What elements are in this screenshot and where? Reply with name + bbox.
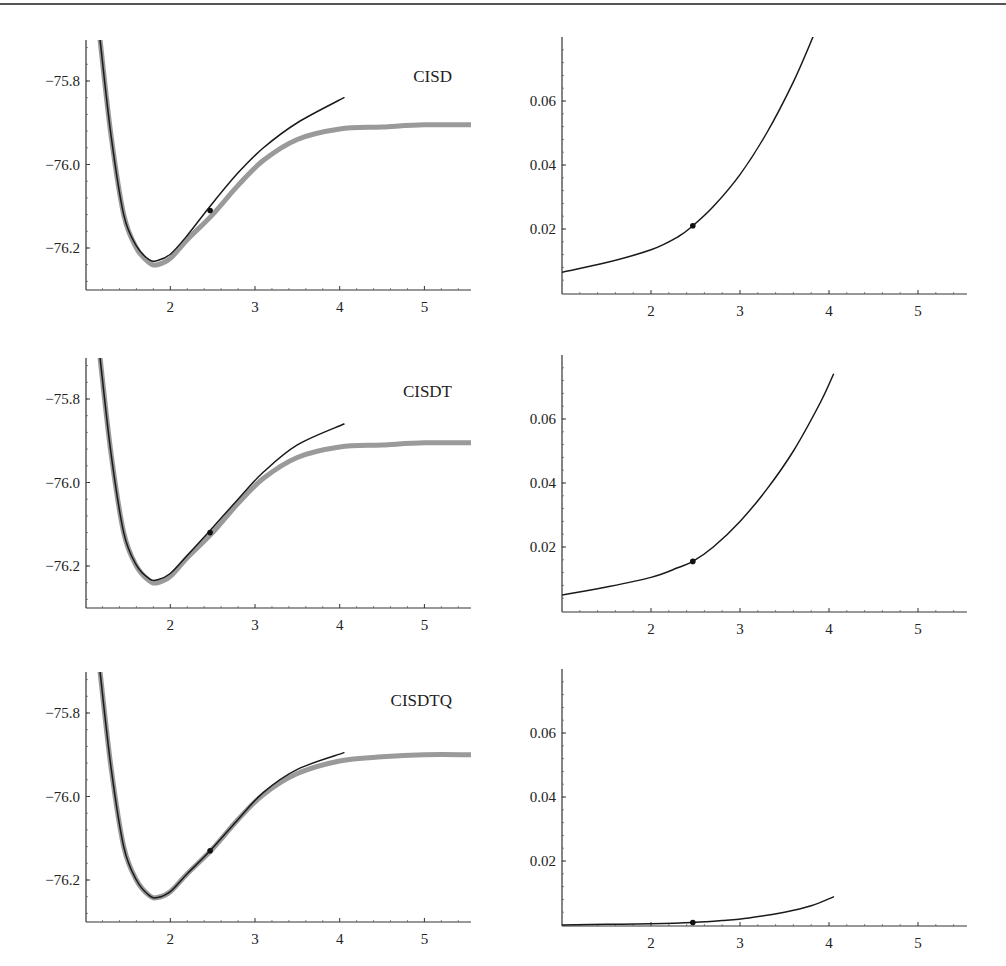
ci-curve [562, 37, 813, 272]
panel-middle-left: 2345−75.8−76.0−76.2CISDT [45, 357, 471, 633]
x-tick-label: 3 [736, 303, 744, 319]
panel-top-right: 23450.020.040.06 [530, 37, 967, 319]
x-tick-label: 2 [647, 303, 655, 319]
panel-middle-right: 23450.020.040.06 [530, 355, 967, 637]
x-tick-label: 5 [914, 935, 922, 951]
data-point-marker [207, 530, 213, 536]
x-tick-label: 4 [336, 617, 344, 633]
data-point-marker [207, 848, 213, 854]
y-tick-label: 0.06 [530, 93, 557, 109]
data-point-marker [690, 920, 696, 926]
y-tick-label: −76.2 [45, 872, 80, 888]
data-point-marker [690, 223, 696, 229]
y-tick-label: −75.8 [45, 391, 80, 407]
x-tick-label: 3 [251, 617, 259, 633]
y-tick-label: −76.2 [45, 558, 80, 574]
y-tick-label: 0.02 [530, 853, 556, 869]
y-tick-label: 0.04 [530, 475, 557, 491]
panel-top-left: 2345−75.8−76.0−76.2CISD [45, 39, 471, 315]
ci-curve [562, 897, 833, 925]
panel-label: CISDTQ [391, 691, 452, 710]
x-tick-label: 5 [421, 299, 429, 315]
ci-curve [562, 374, 833, 595]
panel-label: CISD [413, 67, 452, 86]
x-tick-label: 2 [167, 617, 175, 633]
ci-curve [100, 357, 344, 580]
x-tick-label: 4 [825, 935, 833, 951]
y-tick-label: 0.06 [530, 725, 557, 741]
y-tick-label: −76.0 [45, 789, 80, 805]
x-tick-label: 4 [336, 299, 344, 315]
x-tick-label: 2 [167, 299, 175, 315]
panel-bottom-right: 23450.020.040.06 [530, 669, 967, 951]
y-tick-label: −76.2 [45, 240, 80, 256]
y-tick-label: −76.0 [45, 475, 80, 491]
x-tick-label: 3 [251, 299, 259, 315]
x-tick-label: 4 [336, 931, 344, 947]
x-tick-label: 5 [914, 303, 922, 319]
y-tick-label: 0.02 [530, 221, 556, 237]
x-tick-label: 4 [825, 621, 833, 637]
x-tick-label: 5 [914, 621, 922, 637]
x-tick-label: 3 [736, 935, 744, 951]
y-tick-label: −75.8 [45, 73, 80, 89]
data-point-marker [690, 559, 696, 565]
figure-canvas: 2345−75.8−76.0−76.2CISD23450.020.040.062… [0, 0, 1006, 966]
x-tick-label: 3 [736, 621, 744, 637]
x-tick-label: 4 [825, 303, 833, 319]
x-tick-label: 2 [167, 931, 175, 947]
y-tick-label: 0.04 [530, 157, 557, 173]
ci-curve [100, 39, 344, 261]
x-tick-label: 5 [421, 617, 429, 633]
data-point-marker [207, 208, 213, 214]
y-tick-label: 0.04 [530, 789, 557, 805]
y-tick-label: −75.8 [45, 705, 80, 721]
y-tick-label: −76.0 [45, 157, 80, 173]
x-tick-label: 3 [251, 931, 259, 947]
y-tick-label: 0.02 [530, 539, 556, 555]
panel-bottom-left: 2345−75.8−76.0−76.2CISDTQ [45, 671, 471, 947]
x-tick-label: 5 [421, 931, 429, 947]
panel-label: CISDT [403, 382, 453, 401]
x-tick-label: 2 [647, 621, 655, 637]
ci-curve [100, 671, 344, 898]
x-tick-label: 2 [647, 935, 655, 951]
y-tick-label: 0.06 [530, 411, 557, 427]
